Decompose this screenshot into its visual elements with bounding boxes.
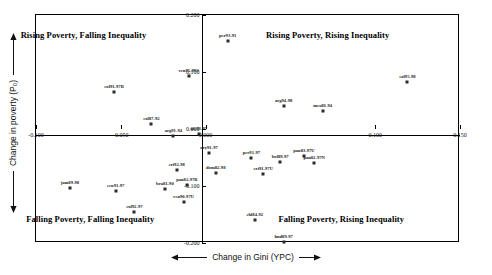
data-point-label: jam89-98 [61, 179, 79, 184]
quadrant-label: Falling Poverty, Falling Inequality [26, 214, 154, 224]
plot-area: -0.100-0.0500.0000.1000.1500.2000.1000.0… [35, 14, 459, 242]
data-point-marker [187, 74, 190, 77]
data-point-marker [68, 186, 71, 189]
y-tick-mark [202, 186, 206, 187]
arrow-right-icon [299, 253, 321, 262]
y-tick-label: -0.200 [174, 240, 200, 246]
data-point-marker [185, 183, 188, 186]
data-point-label: cri92-98 [169, 162, 185, 167]
data-point-marker [175, 169, 178, 172]
data-point-label: per93-91 [219, 32, 236, 37]
data-point-label: cri91-97U [254, 166, 273, 171]
x-tick-mark [375, 125, 376, 129]
quadrant-label: Rising Poverty, Rising Inequality [266, 30, 389, 40]
data-point-marker [114, 189, 117, 192]
data-point-marker [279, 161, 282, 164]
quadrant-label: Falling Poverty, Rising Inequality [278, 214, 404, 224]
data-point-label: mex86-94 [313, 103, 332, 108]
arrow-down-icon [9, 171, 18, 213]
data-point-label: arg94-98 [275, 98, 292, 103]
y-axis-title: Change in poverty (P₀) [8, 80, 18, 166]
data-point-marker [406, 81, 409, 84]
data-point-marker [253, 219, 256, 222]
y-axis-title-group: Change in poverty (P₀) [8, 18, 18, 228]
data-point-marker [262, 173, 265, 176]
data-point-marker [214, 172, 217, 175]
data-point-label: bol89-97 [272, 154, 289, 159]
x-tick-mark [36, 125, 37, 129]
x-tick-label: 0.000 [199, 132, 213, 138]
data-point-marker [133, 210, 136, 213]
data-point-marker [163, 187, 166, 190]
x-tick-label: 0.150 [453, 132, 467, 138]
data-point-marker [207, 151, 210, 154]
x-tick-label: -0.050 [113, 132, 129, 138]
y-tick-mark [202, 243, 206, 244]
data-point-label: pan82-97N [303, 155, 324, 160]
data-point-label: hnd89-97 [274, 233, 292, 238]
data-point-label: col87-92 [143, 116, 159, 121]
data-point-label: nic91-97 [191, 125, 208, 130]
data-point-label: per91-97 [243, 149, 260, 154]
quadrant-label: Rising Poverty, Falling Inequality [21, 30, 147, 40]
data-point-label: ury91-97 [200, 144, 218, 149]
x-axis-line [36, 135, 460, 136]
data-point-label: col92-97 [126, 203, 142, 208]
data-point-label: ecu91-97 [107, 182, 124, 187]
data-point-label: ven90-97U [173, 193, 194, 198]
data-point-marker [226, 39, 229, 42]
data-point-marker [321, 110, 324, 113]
y-tick-mark [202, 15, 206, 16]
data-point-marker [172, 134, 175, 137]
data-point-marker [313, 162, 316, 165]
data-point-label: dom82-98 [206, 165, 225, 170]
y-tick-mark [202, 72, 206, 73]
x-axis-title: Change in Gini (YPC) [212, 252, 294, 262]
x-tick-label: 0.100 [368, 132, 382, 138]
x-axis-title-group: Change in Gini (YPC) [0, 252, 492, 262]
scatter-chart: -0.100-0.0500.0000.1000.1500.2000.1000.0… [0, 0, 492, 275]
data-point-label: col95-98 [399, 74, 415, 79]
data-point-marker [197, 132, 200, 135]
data-point-label: pan82-97R [176, 176, 197, 181]
data-point-label: chl84-92 [246, 212, 263, 217]
data-point-marker [182, 200, 185, 203]
data-point-marker [282, 105, 285, 108]
x-tick-label: -0.100 [28, 132, 44, 138]
data-point-label: col91-97B [104, 83, 123, 88]
arrow-left-icon [171, 253, 207, 262]
data-point-label: bra81-90 [156, 180, 174, 185]
data-point-label: pan83-97U [293, 147, 314, 152]
data-point-marker [150, 123, 153, 126]
data-point-marker [113, 90, 116, 93]
data-point-label: ven95-99S [179, 67, 199, 72]
data-point-label: arg91-94 [165, 127, 182, 132]
data-point-marker [250, 156, 253, 159]
x-tick-mark [460, 125, 461, 129]
y-tick-label: 0.200 [174, 12, 200, 18]
data-point-marker [282, 240, 285, 243]
x-tick-mark [121, 125, 122, 129]
arrow-up-icon [9, 33, 18, 75]
